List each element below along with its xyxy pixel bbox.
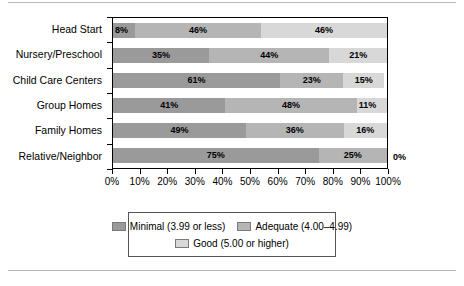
bar-value-label: 46% — [315, 26, 333, 35]
x-axis-tick — [222, 169, 223, 174]
bar-row: 49%36%16% — [113, 123, 387, 138]
legend-swatch-icon — [112, 222, 126, 231]
x-axis-ticks — [112, 169, 388, 175]
legend-swatch-icon — [237, 222, 251, 231]
annotation-zero-percent: 0% — [393, 152, 406, 162]
y-axis-category-labels: Head StartNursery/PreschoolChild Care Ce… — [0, 17, 108, 169]
bar-segment: 35% — [113, 48, 209, 63]
bar-value-label: 23% — [303, 76, 321, 85]
legend-swatch-icon — [175, 239, 189, 248]
legend-item[interactable]: Minimal (3.99 or less) — [112, 221, 226, 232]
x-axis-tick — [250, 169, 251, 174]
x-axis-tick — [360, 169, 361, 174]
legend-row: Minimal (3.99 or less)Adequate (4.00–4.9… — [129, 218, 335, 235]
bar-value-label: 75% — [207, 151, 225, 160]
bar-value-label: 44% — [260, 51, 278, 60]
bar-value-label: 25% — [344, 151, 362, 160]
bar-row: 75%25% — [113, 148, 387, 163]
bar-row: 61%23%15% — [113, 73, 387, 88]
plot-area: 8%46%46%35%44%21%61%23%15%41%48%11%49%36… — [112, 17, 388, 169]
bar-segment: 46% — [135, 23, 261, 38]
bar-value-label: 48% — [282, 101, 300, 110]
bar-segment: 25% — [319, 148, 388, 163]
bar-segment: 41% — [113, 98, 225, 113]
x-axis-tick — [388, 169, 389, 174]
bar-segment: 16% — [344, 123, 387, 138]
x-axis-tick — [333, 169, 334, 174]
legend-item[interactable]: Adequate (4.00–4.99) — [237, 221, 352, 232]
x-axis-tick — [195, 169, 196, 174]
bar-value-label: 35% — [152, 51, 170, 60]
x-axis-tick-label: 90% — [350, 176, 370, 187]
chart-figure: Head StartNursery/PreschoolChild Care Ce… — [0, 0, 464, 286]
bar-row: 35%44%21% — [113, 48, 387, 63]
bar-value-label: 46% — [189, 26, 207, 35]
bar-value-label: 21% — [349, 51, 367, 60]
legend-label: Adequate (4.00–4.99) — [255, 221, 352, 232]
x-axis-tick — [167, 169, 168, 174]
x-axis-tick-label: 10% — [130, 176, 150, 187]
bar-value-label: 11% — [359, 101, 377, 110]
bar-segment: 21% — [329, 48, 387, 63]
legend-item[interactable]: Good (5.00 or higher) — [175, 238, 289, 249]
x-axis-tick-label: 80% — [323, 176, 343, 187]
bar-segment: 8% — [113, 23, 135, 38]
legend-label: Good (5.00 or higher) — [193, 238, 289, 249]
bar-value-label: 61% — [188, 76, 206, 85]
x-axis-tick-label: 20% — [157, 176, 177, 187]
legend-row: Good (5.00 or higher) — [129, 235, 335, 252]
y-axis-label: Group Homes — [0, 98, 108, 113]
y-axis-label: Head Start — [0, 22, 108, 37]
bar-row: 8%46%46% — [113, 23, 387, 38]
x-axis-tick-label: 60% — [268, 176, 288, 187]
y-axis-label: Family Homes — [0, 123, 108, 138]
x-axis-tick — [140, 169, 141, 174]
bar-segment: 23% — [280, 73, 343, 88]
top-divider-rule — [8, 2, 456, 3]
bar-row: 41%48%11% — [113, 98, 387, 113]
x-axis-tick-label: 0% — [105, 176, 119, 187]
x-axis-tick — [278, 169, 279, 174]
bar-rows: 8%46%46%35%44%21%61%23%15%41%48%11%49%36… — [113, 18, 387, 168]
bar-segment: 11% — [357, 98, 387, 113]
bottom-divider-rule — [8, 270, 456, 271]
bar-value-label: 36% — [286, 126, 304, 135]
bar-segment: 15% — [343, 73, 384, 88]
bar-segment: 46% — [261, 23, 387, 38]
x-axis-tick-label: 40% — [212, 176, 232, 187]
x-axis-tick — [112, 169, 113, 174]
bar-value-label: 15% — [355, 76, 373, 85]
x-axis-tick-labels: 0%10%20%30%40%50%60%70%80%90%100% — [112, 176, 388, 190]
bar-value-label: 41% — [160, 101, 178, 110]
bar-segment: 75% — [113, 148, 319, 163]
bar-segment: 49% — [113, 123, 246, 138]
x-axis-tick-label: 70% — [295, 176, 315, 187]
bar-segment: 36% — [246, 123, 344, 138]
x-axis-tick — [305, 169, 306, 174]
x-axis-tick-label: 100% — [375, 176, 401, 187]
x-axis-tick-label: 50% — [240, 176, 260, 187]
legend-label: Minimal (3.99 or less) — [130, 221, 226, 232]
bar-value-label: 16% — [356, 126, 374, 135]
x-axis-tick-label: 30% — [185, 176, 205, 187]
bar-segment: 61% — [113, 73, 280, 88]
bar-value-label: 8% — [115, 26, 128, 35]
bar-segment: 44% — [209, 48, 330, 63]
y-axis-label: Relative/Neighbor — [0, 149, 108, 164]
bar-segment: 48% — [225, 98, 357, 113]
bar-value-label: 49% — [170, 126, 188, 135]
chart-legend: Minimal (3.99 or less)Adequate (4.00–4.9… — [128, 212, 336, 257]
y-axis-label: Nursery/Preschool — [0, 47, 108, 62]
y-axis-label: Child Care Centers — [0, 73, 108, 88]
